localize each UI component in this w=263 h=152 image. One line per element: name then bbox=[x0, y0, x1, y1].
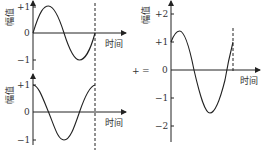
y-axis-label: 幅值 bbox=[4, 86, 15, 104]
wave-superposition-diagram: +1 0 −1 幅值 时间 +1 0 −1 幅值 时间 + = +2 +1 0 … bbox=[0, 0, 263, 152]
x-axis-label: 时间 bbox=[105, 38, 123, 49]
tick-0: 0 bbox=[24, 107, 30, 117]
tick-minus2: −2 bbox=[155, 121, 168, 131]
x-axis-label: 时间 bbox=[105, 117, 123, 128]
panel-wave-2: +1 0 −1 幅值 时间 bbox=[4, 73, 126, 150]
tick-plus1: +1 bbox=[17, 2, 30, 12]
tick-plus1: +1 bbox=[155, 37, 168, 47]
plus-operator: + bbox=[132, 66, 140, 76]
y-axis-label: 幅值 bbox=[140, 6, 151, 24]
tick-plus2: +2 bbox=[155, 9, 168, 19]
panel-wave-1: +1 0 −1 幅值 时间 bbox=[4, 1, 126, 72]
x-axis-label: 时间 bbox=[240, 75, 258, 86]
sum-curve bbox=[171, 31, 233, 113]
equals-operator: = bbox=[142, 66, 150, 76]
tick-0: 0 bbox=[24, 28, 30, 38]
y-axis-label: 幅值 bbox=[4, 8, 15, 26]
panel-sum-wave: +2 +1 0 −1 −2 幅值 时间 bbox=[140, 1, 260, 142]
tick-plus1: +1 bbox=[17, 80, 30, 90]
tick-minus1: −1 bbox=[17, 135, 30, 145]
tick-minus1: −1 bbox=[155, 93, 168, 103]
tick-0: 0 bbox=[162, 65, 168, 75]
tick-minus1: −1 bbox=[17, 55, 30, 65]
